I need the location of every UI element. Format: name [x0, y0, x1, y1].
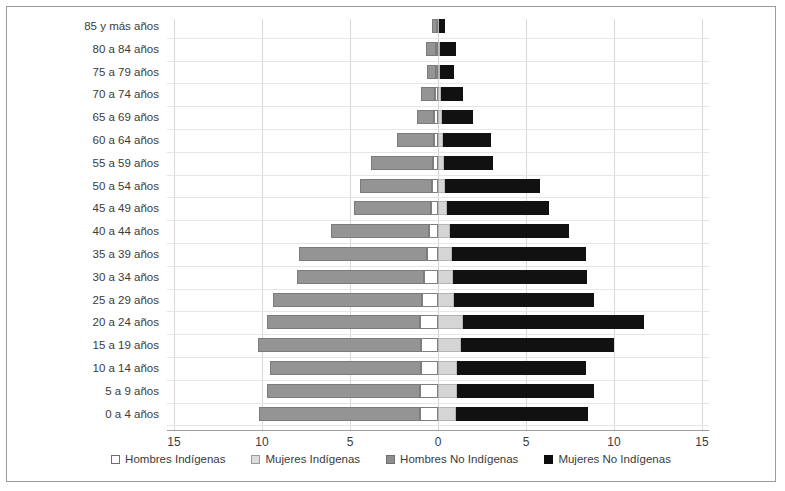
bar-segment — [267, 315, 420, 329]
bar-segment — [438, 293, 454, 307]
legend-label: Mujeres Indígenas — [265, 453, 360, 465]
bar-segment — [443, 133, 491, 147]
horizontal-gridline — [167, 266, 709, 267]
category-label: 40 a 44 años — [7, 225, 159, 237]
bar-segment — [420, 407, 438, 421]
bar-segment — [267, 384, 420, 398]
legend-item-hni[interactable]: Hombres No Indígenas — [386, 453, 518, 465]
category-label: 35 a 39 años — [7, 248, 159, 260]
horizontal-gridline — [167, 425, 709, 426]
category-label: 10 a 14 años — [7, 362, 159, 374]
bar-segment — [452, 247, 586, 261]
horizontal-gridline — [167, 380, 709, 381]
bar-segment — [432, 19, 437, 33]
bar-segment — [438, 315, 463, 329]
x-tick-label: 5 — [506, 435, 546, 449]
bar-segment — [420, 384, 438, 398]
bar-segment — [450, 224, 569, 238]
horizontal-gridline — [167, 357, 709, 358]
legend-swatch-icon — [111, 455, 120, 464]
bar-segment — [427, 65, 436, 79]
legend-swatch-icon — [544, 455, 553, 464]
bar-segment — [453, 270, 587, 284]
population-pyramid-chart: 85 y más años80 a 84 años75 a 79 años70 … — [7, 7, 777, 483]
horizontal-gridline — [167, 38, 709, 39]
bar-segment — [439, 19, 445, 33]
horizontal-gridline — [167, 61, 709, 62]
x-tick-label: 15 — [682, 435, 722, 449]
category-label: 60 a 64 años — [7, 134, 159, 146]
bar-segment — [429, 224, 438, 238]
bar-segment — [427, 247, 438, 261]
category-label: 30 a 34 años — [7, 271, 159, 283]
bar-segment — [438, 224, 450, 238]
bar-segment — [431, 201, 438, 215]
legend-swatch-icon — [386, 455, 395, 464]
category-label: 55 a 59 años — [7, 157, 159, 169]
x-tick-label: 10 — [594, 435, 634, 449]
horizontal-gridline — [167, 220, 709, 221]
bar-segment — [447, 201, 549, 215]
bar-segment — [457, 361, 585, 375]
horizontal-gridline — [167, 334, 709, 335]
chart-legend: Hombres IndígenasMujeres IndígenasHombre… — [7, 453, 775, 465]
category-label: 75 a 79 años — [7, 66, 159, 78]
bar-segment — [438, 384, 457, 398]
bar-segment — [457, 384, 593, 398]
horizontal-gridline — [167, 83, 709, 84]
horizontal-gridline — [167, 106, 709, 107]
horizontal-gridline — [167, 311, 709, 312]
bar-segment — [444, 156, 493, 170]
bar-segment — [273, 293, 423, 307]
bar-segment — [259, 407, 419, 421]
chart-frame: 85 y más años80 a 84 años75 a 79 años70 … — [6, 6, 776, 482]
bar-segment — [463, 315, 644, 329]
legend-label: Mujeres No Indígenas — [558, 453, 671, 465]
bar-segment — [258, 338, 422, 352]
bar-segment — [421, 361, 438, 375]
bar-segment — [421, 338, 438, 352]
bar-segment — [438, 338, 461, 352]
legend-label: Hombres Indígenas — [125, 453, 225, 465]
bar-segment — [422, 293, 438, 307]
category-label: 80 a 84 años — [7, 43, 159, 55]
bar-segment — [438, 201, 447, 215]
category-label: 20 a 24 años — [7, 316, 159, 328]
bar-segment — [354, 201, 431, 215]
category-label: 50 a 54 años — [7, 180, 159, 192]
bar-segment — [438, 247, 452, 261]
horizontal-gridline — [167, 152, 709, 153]
legend-item-mi[interactable]: Mujeres Indígenas — [251, 453, 360, 465]
bar-segment — [461, 338, 614, 352]
category-label: 15 a 19 años — [7, 339, 159, 351]
x-tick-label: 5 — [330, 435, 370, 449]
horizontal-gridline — [167, 129, 709, 130]
bar-segment — [420, 315, 438, 329]
category-label: 65 a 69 años — [7, 111, 159, 123]
bar-segment — [440, 42, 456, 56]
bar-segment — [424, 270, 438, 284]
x-tick-label: 0 — [418, 435, 458, 449]
bar-segment — [331, 224, 430, 238]
horizontal-gridline — [167, 289, 709, 290]
category-label: 70 a 74 años — [7, 88, 159, 100]
horizontal-gridline — [167, 175, 709, 176]
bar-segment — [299, 247, 427, 261]
horizontal-gridline — [167, 197, 709, 198]
bar-segment — [371, 156, 433, 170]
bar-segment — [426, 42, 437, 56]
bar-segment — [397, 133, 434, 147]
bar-segment — [421, 87, 435, 101]
bar-segment — [417, 110, 435, 124]
bar-segment — [438, 270, 453, 284]
category-label: 45 a 49 años — [7, 202, 159, 214]
bar-segment — [441, 87, 463, 101]
horizontal-gridline — [167, 243, 709, 244]
bar-segment — [438, 179, 445, 193]
x-tick-label: 15 — [154, 435, 194, 449]
legend-item-hi[interactable]: Hombres Indígenas — [111, 453, 225, 465]
bar-segment — [440, 65, 454, 79]
bar-segment — [438, 361, 457, 375]
legend-item-mni[interactable]: Mujeres No Indígenas — [544, 453, 671, 465]
bar-segment — [297, 270, 424, 284]
